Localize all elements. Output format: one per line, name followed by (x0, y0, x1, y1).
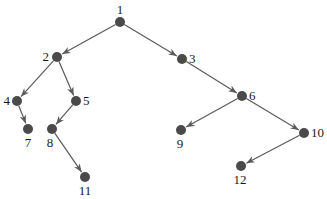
node-label-6: 6 (249, 88, 256, 103)
nodes-layer (12, 17, 309, 182)
edge-10-to-12 (246, 135, 299, 163)
edge-2-to-5 (59, 62, 74, 96)
node-11 (80, 172, 90, 182)
edge-1-to-2 (62, 24, 115, 54)
node-5 (71, 96, 81, 106)
edges-layer (19, 24, 300, 172)
node-label-7: 7 (25, 135, 32, 150)
node-label-5: 5 (83, 93, 90, 108)
node-3 (177, 54, 187, 64)
node-label-2: 2 (43, 49, 50, 64)
node-label-8: 8 (47, 135, 54, 150)
node-label-9: 9 (177, 136, 184, 151)
edge-5-to-8 (56, 105, 73, 125)
edge-6-to-9 (186, 98, 237, 127)
node-label-1: 1 (117, 2, 124, 17)
node-label-11: 11 (79, 183, 92, 198)
edge-8-to-11 (55, 133, 82, 172)
edge-2-to-4 (21, 61, 54, 97)
node-label-3: 3 (189, 51, 196, 66)
node-1 (115, 17, 125, 27)
labels-layer: 123456789101112 (4, 2, 325, 198)
node-12 (236, 161, 246, 171)
node-7 (23, 124, 33, 134)
node-label-4: 4 (4, 93, 11, 108)
edge-1-to-3 (124, 25, 177, 56)
node-9 (176, 125, 186, 135)
node-8 (47, 124, 57, 134)
node-10 (299, 128, 309, 138)
edge-4-to-7 (19, 106, 26, 124)
tree-diagram: 123456789101112 (0, 0, 327, 199)
node-4 (12, 96, 22, 106)
node-label-10: 10 (311, 125, 324, 140)
node-2 (52, 52, 62, 62)
edge-6-to-10 (246, 99, 298, 130)
node-label-12: 12 (234, 172, 247, 187)
node-6 (237, 91, 247, 101)
edge-3-to-6 (186, 62, 237, 93)
